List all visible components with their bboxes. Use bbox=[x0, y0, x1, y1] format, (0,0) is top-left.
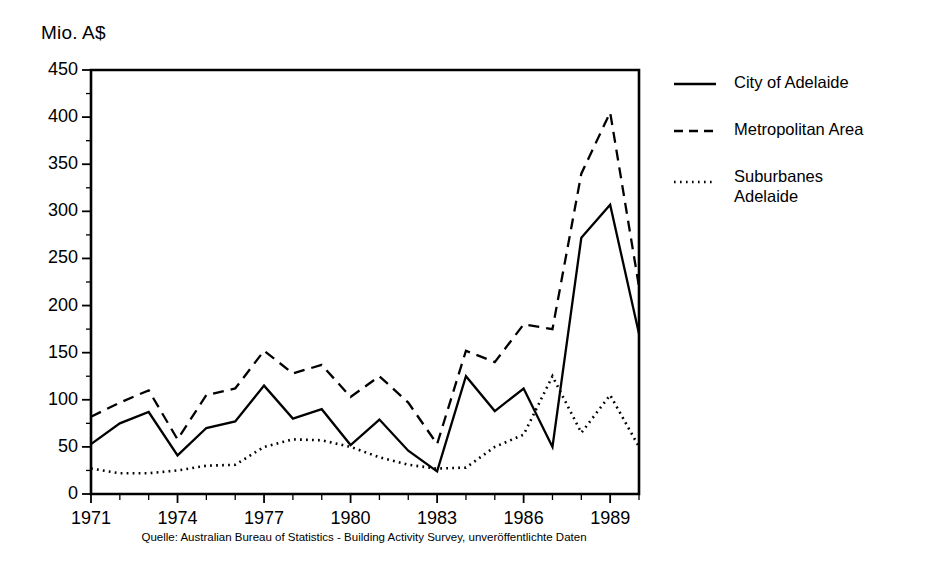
x-axis-tick-label: 1989 bbox=[575, 508, 645, 529]
chart-figure: Mio. A$ 050100150200250300350400450 1971… bbox=[0, 0, 928, 566]
y-axis-tick-label: 450 bbox=[26, 59, 78, 80]
dotted-line-icon bbox=[672, 168, 718, 188]
y-axis-tick-label: 50 bbox=[26, 436, 78, 457]
legend-item-label: Suburbanes Adelaide bbox=[734, 166, 823, 206]
legend-item: Metropolitan Area bbox=[672, 119, 922, 141]
x-axis-tick-label: 1980 bbox=[316, 508, 386, 529]
x-axis-tick-label: 1974 bbox=[143, 508, 213, 529]
x-axis-tick-label: 1986 bbox=[489, 508, 559, 529]
y-axis-tick-label: 250 bbox=[26, 247, 78, 268]
dashed-line-icon bbox=[672, 121, 718, 141]
chart-legend: City of Adelaide Metropolitan Area Subur… bbox=[672, 72, 922, 231]
y-axis-tick-label: 0 bbox=[26, 483, 78, 504]
y-axis-tick-label: 400 bbox=[26, 106, 78, 127]
y-axis-tick-label: 200 bbox=[26, 295, 78, 316]
source-caption: Quelle: Australian Bureau of Statistics … bbox=[64, 531, 664, 543]
legend-item-label: City of Adelaide bbox=[734, 72, 849, 92]
y-axis-tick-label: 150 bbox=[26, 342, 78, 363]
legend-item: Suburbanes Adelaide bbox=[672, 166, 922, 206]
data-series-line bbox=[91, 376, 639, 473]
legend-item-label: Metropolitan Area bbox=[734, 119, 863, 139]
data-series-line bbox=[91, 112, 639, 444]
x-axis-tick-label: 1971 bbox=[56, 508, 126, 529]
x-axis-tick-label: 1983 bbox=[402, 508, 472, 529]
data-lines bbox=[91, 112, 639, 473]
solid-line-icon bbox=[672, 74, 718, 94]
y-axis-tick-label: 100 bbox=[26, 389, 78, 410]
y-axis-tick-label: 300 bbox=[26, 200, 78, 221]
x-axis-tick-label: 1977 bbox=[229, 508, 299, 529]
y-axis-tick-label: 350 bbox=[26, 153, 78, 174]
legend-item: City of Adelaide bbox=[672, 72, 922, 94]
